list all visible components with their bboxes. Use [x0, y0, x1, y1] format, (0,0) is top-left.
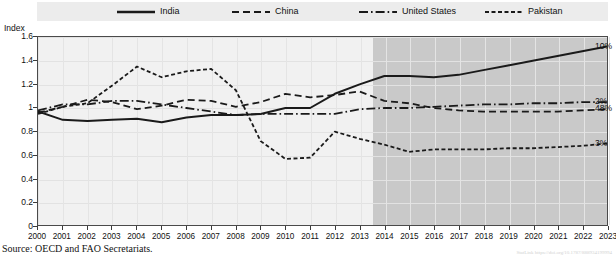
- x-tick-label: 2015: [400, 232, 418, 241]
- series-line-china: [38, 91, 607, 112]
- x-tick-mark: [459, 226, 460, 230]
- x-tick-mark: [136, 226, 137, 230]
- legend-label: China: [275, 7, 299, 16]
- y-axis: 00.20.40.60.811.21.41.6: [0, 36, 33, 226]
- x-tick-label: 2016: [425, 232, 443, 241]
- x-tick-label: 2012: [326, 232, 344, 241]
- x-tick-label: 2020: [524, 232, 542, 241]
- legend-item-united-states[interactable]: United States: [359, 2, 456, 21]
- y-tick-label: 0.4: [21, 174, 33, 184]
- x-tick-mark: [558, 226, 559, 230]
- statlink-doi: StatLink https://doi.org/10.1787/8889341…: [516, 250, 612, 255]
- x-tick-label: 2013: [351, 232, 369, 241]
- x-tick-mark: [534, 226, 535, 230]
- legend-swatch-solid-icon: [117, 6, 155, 18]
- x-tick-mark: [385, 226, 386, 230]
- y-tick-label: 1.2: [21, 79, 33, 89]
- x-tick-label: 2019: [500, 232, 518, 241]
- legend-item-pakistan[interactable]: Pakistan: [485, 2, 563, 21]
- x-tick-label: 2004: [127, 232, 145, 241]
- x-tick-label: 2017: [450, 232, 468, 241]
- x-tick-label: 2006: [177, 232, 195, 241]
- x-tick-mark: [409, 226, 410, 230]
- x-tick-label: 2000: [28, 232, 46, 241]
- end-label-pakistan: 3%: [595, 138, 607, 148]
- x-tick-mark: [310, 226, 311, 230]
- y-tick-label: 0.6: [21, 150, 33, 160]
- x-tick-label: 2010: [276, 232, 294, 241]
- x-tick-label: 2003: [102, 232, 120, 241]
- x-tick-label: 2018: [475, 232, 493, 241]
- x-tick-mark: [161, 226, 162, 230]
- legend-label: India: [160, 7, 180, 16]
- x-tick-mark: [111, 226, 112, 230]
- legend-swatch-dashed-icon: [232, 6, 270, 18]
- legend-label: United States: [402, 7, 456, 16]
- x-tick-mark: [608, 226, 609, 230]
- x-tick-mark: [186, 226, 187, 230]
- x-tick-label: 2008: [226, 232, 244, 241]
- legend-swatch-dash-dot-icon: [359, 6, 397, 18]
- x-tick-mark: [360, 226, 361, 230]
- series-lines: [38, 37, 607, 226]
- x-tick-label: 2021: [549, 232, 567, 241]
- x-tick-mark: [335, 226, 336, 230]
- x-tick-label: 2011: [301, 232, 319, 241]
- end-label-india: 10%: [595, 41, 612, 51]
- y-tick-label: 1.6: [21, 31, 33, 41]
- series-line-pakistan: [38, 67, 607, 159]
- x-tick-mark: [211, 226, 212, 230]
- x-tick-mark: [87, 226, 88, 230]
- series-line-india: [38, 46, 607, 122]
- x-tick-label: 2009: [251, 232, 269, 241]
- gridline-vertical: [609, 37, 610, 225]
- source-note: Source: OECD and FAO Secretariats.: [2, 243, 153, 254]
- x-tick-mark: [37, 226, 38, 230]
- plot-area: [37, 36, 608, 226]
- chart-legend: IndiaChinaUnited StatesPakistan: [37, 2, 608, 21]
- end-label-united-states: 2%: [595, 96, 607, 106]
- x-tick-mark: [509, 226, 510, 230]
- x-tick-mark: [62, 226, 63, 230]
- series-line-united-states: [38, 101, 607, 115]
- x-tick-label: 2014: [375, 232, 393, 241]
- legend-label: Pakistan: [528, 7, 563, 16]
- x-tick-mark: [484, 226, 485, 230]
- x-tick-label: 2022: [574, 232, 592, 241]
- legend-item-india[interactable]: India: [117, 2, 180, 21]
- legend-swatch-short-dashed-icon: [485, 6, 523, 18]
- x-tick-label: 2005: [152, 232, 170, 241]
- x-tick-mark: [434, 226, 435, 230]
- x-tick-mark: [260, 226, 261, 230]
- x-tick-label: 2001: [53, 232, 71, 241]
- x-tick-label: 2007: [202, 232, 220, 241]
- x-tick-label: 2023: [599, 232, 616, 241]
- y-tick-label: 0.8: [21, 126, 33, 136]
- x-tick-label: 2002: [78, 232, 96, 241]
- legend-item-china[interactable]: China: [232, 2, 299, 21]
- x-tick-mark: [285, 226, 286, 230]
- y-tick-label: 1.4: [21, 55, 33, 65]
- y-tick-label: 0.2: [21, 197, 33, 207]
- x-tick-mark: [236, 226, 237, 230]
- x-tick-mark: [583, 226, 584, 230]
